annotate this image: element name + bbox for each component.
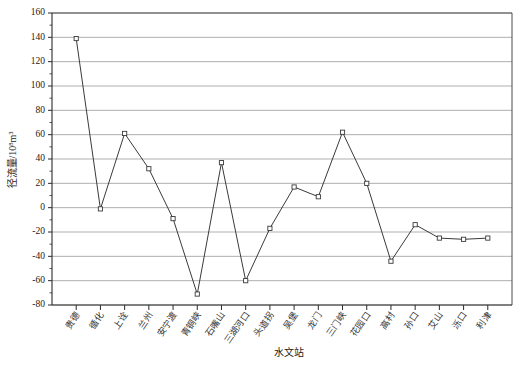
x-tick-label-group: 头道拐 xyxy=(251,310,275,338)
gridlines xyxy=(52,13,512,305)
x-tick-label-group: 花园口 xyxy=(348,310,372,338)
x-axis-title: 水文站 xyxy=(274,346,304,358)
data-point-marker xyxy=(365,181,369,185)
x-tick-label: 龙门 xyxy=(305,310,324,331)
data-point-marker xyxy=(98,207,102,211)
y-tick-label: 40 xyxy=(36,153,46,163)
x-tick-label-group: 三门峡 xyxy=(324,310,348,338)
x-tick-label-group: 利津 xyxy=(474,310,493,331)
x-tick-label: 孙口 xyxy=(401,310,420,331)
x-tick-label-group: 安宁渡 xyxy=(154,310,178,338)
x-tick-label: 利津 xyxy=(474,310,493,331)
data-point-marker xyxy=(292,185,296,189)
x-axis-ticks xyxy=(76,305,488,310)
x-tick-label: 三门峡 xyxy=(324,310,348,338)
data-point-marker xyxy=(340,130,344,134)
y-tick-label: 60 xyxy=(36,129,46,139)
x-tick-label-group: 龙门 xyxy=(305,310,324,331)
x-tick-label: 艾山 xyxy=(426,310,445,330)
x-tick-label-group: 石嘴山 xyxy=(203,310,227,338)
y-tick-label: -20 xyxy=(32,226,45,236)
x-tick-label: 上诠 xyxy=(111,310,130,331)
y-tick-label: 100 xyxy=(31,80,46,90)
chart-canvas: 160140120100806040200-20-40-60-80 贵德循化上诠… xyxy=(0,0,526,369)
data-point-marker xyxy=(437,236,441,240)
x-tick-label-group: 青铜峡 xyxy=(178,310,202,338)
y-tick-label: -80 xyxy=(32,299,45,309)
y-axis-title-unit: m³ xyxy=(7,132,18,143)
data-point-marker xyxy=(268,226,272,230)
x-tick-label: 贵德 xyxy=(63,310,82,331)
y-tick-label: -40 xyxy=(32,251,45,261)
data-point-marker xyxy=(123,131,127,135)
data-point-marker xyxy=(486,236,490,240)
data-point-marker xyxy=(171,217,175,221)
data-point-marker xyxy=(195,292,199,296)
x-tick-label: 安宁渡 xyxy=(154,310,178,338)
x-tick-label: 循化 xyxy=(87,310,106,331)
data-point-markers xyxy=(74,36,490,296)
x-tick-label: 花园口 xyxy=(348,310,372,338)
x-axis-tick-labels: 贵德循化上诠兰州安宁渡青铜峡石嘴山三湖河口头道拐吴堡龙门三门峡花园口高村孙口艾山… xyxy=(63,310,494,346)
x-tick-label: 头道拐 xyxy=(251,310,275,338)
x-tick-label-group: 泺口 xyxy=(450,310,469,331)
y-tick-label: -60 xyxy=(32,275,45,285)
x-tick-label-group: 上诠 xyxy=(111,310,130,331)
y-tick-label: 80 xyxy=(36,105,46,115)
y-tick-label: 0 xyxy=(40,202,45,212)
x-tick-label-group: 孙口 xyxy=(401,310,420,331)
data-point-marker xyxy=(461,237,465,241)
y-tick-label: 120 xyxy=(31,56,46,66)
y-axis-title: 径流量/108m³ xyxy=(6,132,18,189)
x-tick-label-group: 高村 xyxy=(377,310,396,331)
x-tick-label-group: 艾山 xyxy=(426,310,445,330)
svg-text:径流量/108m³: 径流量/108m³ xyxy=(6,132,18,189)
x-tick-label: 青铜峡 xyxy=(178,310,202,338)
data-series-runoff xyxy=(76,39,488,294)
x-tick-label: 三湖河口 xyxy=(222,310,252,346)
y-axis-tick-labels: 160140120100806040200-20-40-60-80 xyxy=(31,7,46,309)
y-tick-label: 20 xyxy=(36,178,46,188)
data-point-marker xyxy=(219,161,223,165)
y-tick-label: 140 xyxy=(31,32,46,42)
x-tick-label-group: 循化 xyxy=(87,310,106,331)
x-tick-label-group: 贵德 xyxy=(63,310,82,331)
x-tick-label: 石嘴山 xyxy=(203,310,227,338)
x-tick-label: 高村 xyxy=(377,310,396,331)
x-tick-label: 泺口 xyxy=(450,310,469,331)
data-point-marker xyxy=(74,36,78,40)
runoff-line-chart: 160140120100806040200-20-40-60-80 贵德循化上诠… xyxy=(0,0,526,369)
data-point-marker xyxy=(244,279,248,283)
y-tick-label: 160 xyxy=(31,7,46,17)
x-tick-label-group: 吴堡 xyxy=(280,310,299,331)
x-tick-label: 兰州 xyxy=(135,310,154,331)
series-polyline xyxy=(76,39,488,294)
data-point-marker xyxy=(389,259,393,263)
x-tick-label-group: 兰州 xyxy=(135,310,154,331)
data-point-marker xyxy=(147,167,151,171)
y-axis-title-base: 径流量/10 xyxy=(6,146,18,189)
data-point-marker xyxy=(316,195,320,199)
x-tick-label: 吴堡 xyxy=(280,310,299,331)
data-point-marker xyxy=(413,223,417,227)
y-axis-ticks xyxy=(48,13,52,305)
x-tick-label-group: 三湖河口 xyxy=(222,310,252,346)
